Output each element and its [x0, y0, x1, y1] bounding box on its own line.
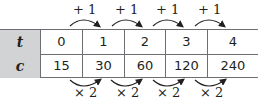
top-arrow-3 [153, 20, 182, 26]
table-row-t: t 0 1 2 3 4 [0, 30, 258, 55]
row-header-t: t [0, 30, 41, 54]
cell: 2 [125, 30, 166, 54]
cell: 3 [166, 30, 208, 54]
cell: 1 [83, 30, 125, 54]
cell: 120 [166, 54, 208, 78]
table-row-c: c 15 30 60 120 240 [0, 54, 258, 78]
cell: 240 [208, 54, 258, 78]
top-label-3: + 1 [156, 2, 179, 17]
top-arrow-4 [195, 20, 224, 26]
bottom-label-2: × 2 [116, 85, 139, 100]
bottom-label-3: × 2 [157, 85, 180, 100]
top-label-1: + 1 [73, 2, 96, 17]
top-label-2: + 1 [115, 2, 138, 17]
cell: 60 [125, 54, 166, 78]
top-arrow-1 [70, 20, 99, 26]
bottom-label-1: × 2 [74, 85, 97, 100]
top-label-4: + 1 [198, 2, 221, 17]
data-table: t 0 1 2 3 4 c 15 30 60 120 240 [0, 29, 258, 78]
cell: 4 [208, 30, 258, 54]
cell: 0 [41, 30, 83, 54]
top-arrow-2 [112, 20, 141, 26]
row-header-c: c [0, 54, 41, 78]
cell: 30 [83, 54, 125, 78]
bottom-label-4: × 2 [200, 85, 223, 100]
cell: 15 [41, 54, 83, 78]
